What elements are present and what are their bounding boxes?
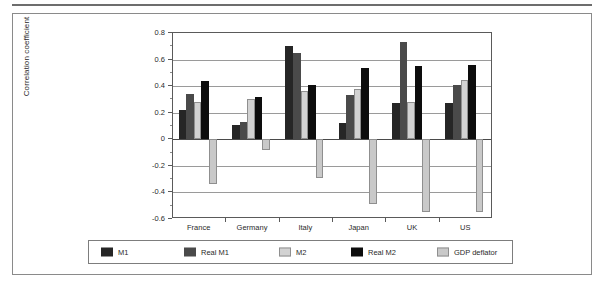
legend-item[interactable]: M1	[101, 248, 128, 257]
bar	[240, 122, 248, 139]
legend-swatch-icon	[101, 248, 113, 257]
bar	[461, 80, 469, 140]
x-tick-mark	[385, 218, 386, 222]
y-axis-title: Correlation coefficient	[22, 0, 31, 127]
x-axis-category-label: Germany	[237, 223, 268, 232]
bar	[476, 139, 484, 212]
legend-label: M2	[296, 248, 306, 257]
bar	[468, 65, 476, 139]
bar	[400, 42, 408, 139]
x-axis-category-label: Italy	[298, 223, 312, 232]
bar	[339, 123, 347, 139]
y-tick-label: -0.4	[139, 187, 165, 196]
bar	[301, 91, 309, 139]
bar	[262, 139, 270, 150]
bar	[308, 85, 316, 139]
y-tick-label: -0.6	[139, 214, 165, 223]
y-tick-mark	[168, 218, 172, 219]
y-tick-label: 0.6	[139, 54, 165, 63]
x-tick-mark	[279, 218, 280, 222]
legend-swatch-icon	[184, 248, 196, 257]
bar	[346, 95, 354, 139]
bar	[316, 139, 324, 178]
bar	[369, 139, 377, 204]
legend-label: Real M2	[368, 248, 396, 257]
x-axis-category-label: US	[460, 223, 470, 232]
legend-item-list: M1Real M1M2Real M2GDP deflator	[89, 241, 512, 263]
bar	[415, 66, 423, 139]
gridline-0	[173, 139, 491, 140]
legend-swatch-icon	[279, 248, 291, 257]
legend-label: M1	[118, 248, 128, 257]
legend-item[interactable]: Real M1	[184, 248, 229, 257]
chart-legend: M1Real M1M2Real M2GDP deflator	[88, 240, 513, 264]
bar	[209, 139, 217, 184]
legend-item[interactable]: M2	[279, 248, 306, 257]
gridline-0_6	[173, 60, 491, 61]
bar	[232, 125, 240, 140]
y-tick-label: -0.2	[139, 160, 165, 169]
bar	[445, 103, 453, 139]
bar	[422, 139, 430, 212]
bar	[201, 81, 209, 139]
bar	[194, 102, 202, 139]
y-tick-label: 0.8	[139, 28, 165, 37]
x-tick-mark	[439, 218, 440, 222]
y-tick-label: 0.4	[139, 81, 165, 90]
x-tick-mark	[332, 218, 333, 222]
figure-container: Correlation coefficient 0.80.60.40.20-0.…	[0, 0, 605, 288]
bar	[247, 99, 255, 139]
plot-area	[172, 32, 492, 218]
bar	[407, 102, 415, 139]
gridline-0_4	[173, 86, 491, 87]
legend-label: Real M1	[201, 248, 229, 257]
bar	[285, 46, 293, 139]
y-tick-label: 0	[139, 134, 165, 143]
bar	[354, 89, 362, 139]
bar	[186, 94, 194, 139]
x-axis-category-label: France	[187, 223, 210, 232]
bar	[361, 68, 369, 140]
bar	[179, 110, 187, 139]
x-axis-category-label: UK	[407, 223, 417, 232]
gridline-0_2	[173, 113, 491, 114]
legend-swatch-icon	[437, 248, 449, 257]
legend-item[interactable]: Real M2	[351, 248, 396, 257]
bar	[453, 85, 461, 139]
gridline-neg0_4	[173, 192, 491, 193]
bar	[392, 103, 400, 139]
bar	[255, 97, 263, 140]
gridline-neg0_2	[173, 166, 491, 167]
y-tick-label: 0.2	[139, 107, 165, 116]
bar	[293, 53, 301, 139]
legend-item[interactable]: GDP deflator	[437, 248, 497, 257]
x-axis-category-label: Japan	[348, 223, 368, 232]
legend-label: GDP deflator	[454, 248, 497, 257]
legend-swatch-icon	[351, 248, 363, 257]
x-tick-mark	[225, 218, 226, 222]
